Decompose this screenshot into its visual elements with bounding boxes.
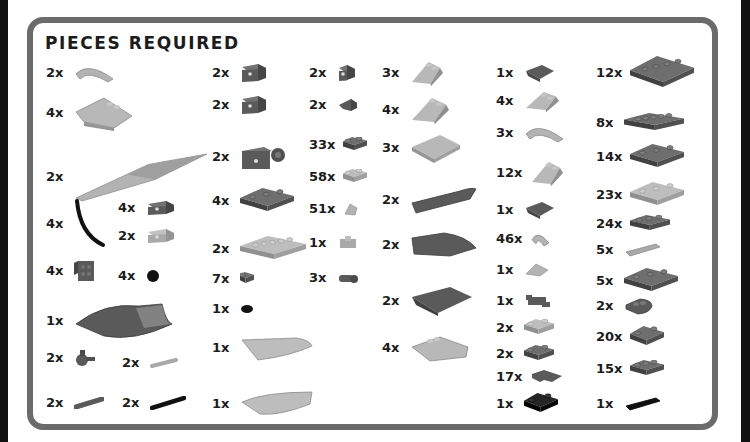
piece-quantity: 2x — [118, 228, 135, 243]
brick-with-wheel-holder-icon — [240, 143, 286, 171]
piece-quantity: 3x — [382, 140, 399, 155]
piece-quantity: 1x — [46, 313, 63, 328]
plate-rounded-pin-icon — [337, 271, 359, 285]
piece-quantity: 5x — [596, 242, 613, 257]
technic-pin-axle-icon — [74, 397, 104, 409]
piece-quantity: 33x — [309, 137, 335, 152]
slope-inverted-1x2-icon — [337, 97, 359, 113]
piece-quantity: 1x — [212, 301, 229, 316]
piece-quantity: 1x — [212, 340, 229, 355]
round-plate-1x1-icon — [240, 304, 254, 314]
technic-brick-1x2-hole-icon — [240, 62, 268, 84]
page-title: PIECES REQUIRED — [45, 33, 240, 53]
round-tile-1x1-icon — [146, 269, 160, 283]
piece-quantity: 1x — [212, 396, 229, 411]
piece-quantity: 2x — [309, 97, 326, 112]
piece-quantity: 24x — [596, 216, 622, 231]
plate-rounded-2x2-icon — [624, 296, 654, 316]
technic-pin-connector-icon — [74, 349, 96, 367]
plate-2x4-icon — [240, 188, 296, 214]
piece-quantity: 14x — [596, 149, 622, 164]
plate-1x2-bar-icon — [524, 345, 556, 363]
piece-quantity: 15x — [596, 361, 622, 376]
curved-slope-1x4-icon — [74, 63, 116, 83]
wedge-slope-2x2-split-icon — [524, 90, 560, 112]
piece-quantity: 2x — [212, 149, 229, 164]
piece-quantity: 1x — [496, 396, 513, 411]
piece-quantity: 2x — [212, 97, 229, 112]
flexible-tube-curved-icon — [74, 199, 106, 249]
piece-quantity: 2x — [596, 298, 613, 313]
piece-quantity: 58x — [309, 169, 335, 184]
tile-1x3-icon — [624, 397, 662, 411]
slope-2x2-icon — [530, 160, 564, 186]
plate-2x3-icon — [624, 268, 680, 294]
piece-quantity: 2x — [212, 65, 229, 80]
wedge-slope-4x4-icon — [74, 94, 136, 132]
piece-quantity: 4x — [212, 193, 229, 208]
bar-1x3-icon — [150, 358, 178, 368]
piece-quantity: 1x — [496, 293, 513, 308]
piece-quantity: 12x — [596, 65, 622, 80]
piece-quantity: 3x — [309, 270, 326, 285]
bracket-1x2-inverted-icon — [146, 199, 176, 217]
piece-quantity: 4x — [118, 200, 135, 215]
piece-quantity: 5x — [596, 273, 613, 288]
piece-quantity: 1x — [496, 202, 513, 217]
piece-quantity: 12x — [496, 165, 522, 180]
bracket-1x2-icon — [146, 227, 176, 245]
slope-2x2-45-icon — [410, 60, 444, 86]
plate-1x6-icon — [624, 113, 686, 133]
piece-quantity: 1x — [309, 235, 326, 250]
piece-quantity: 2x — [46, 169, 63, 184]
wedge-slope-2x3-icon — [410, 96, 450, 124]
plate-2x2-icon — [630, 326, 666, 348]
wedge-wing-12-icon — [74, 152, 209, 202]
curved-wedge-light-mirror-icon — [240, 390, 314, 418]
plate-1x1-icon — [240, 272, 256, 286]
slope-inverted-double-icon — [410, 285, 474, 317]
slope-1x2-cheese-icon — [524, 262, 550, 278]
curved-wedge-light-icon — [240, 334, 314, 362]
slope-inverted-2x2-icon — [524, 63, 556, 83]
piece-quantity: 2x — [496, 320, 513, 335]
plate-2x2-icon — [524, 393, 560, 415]
piece-quantity: 8x — [596, 115, 613, 130]
plate-clip-horizontal-icon — [524, 293, 552, 309]
curved-slope-1x2-icon — [530, 231, 552, 247]
piece-quantity: 1x — [496, 262, 513, 277]
piece-quantity: 4x — [46, 263, 63, 278]
curved-wedge-2x4-icon — [410, 230, 478, 260]
piece-quantity: 20x — [596, 329, 622, 344]
plate-1x2-icon — [343, 169, 369, 185]
piece-quantity: 2x — [212, 241, 229, 256]
plate-1x2-icon — [343, 137, 369, 153]
piece-quantity: 17x — [496, 369, 522, 384]
piece-quantity: 2x — [382, 192, 399, 207]
technic-axle-long-icon — [150, 396, 186, 410]
plate-2x3-icon — [630, 182, 686, 208]
piece-quantity: 23x — [596, 187, 622, 202]
piece-quantity: 2x — [46, 395, 63, 410]
curved-slope-2x6-icon — [410, 185, 478, 215]
piece-quantity: 4x — [382, 102, 399, 117]
plate-corner-2x2-icon — [530, 368, 564, 386]
plate-1x3-icon — [630, 360, 666, 378]
plate-2x4-icon — [630, 144, 686, 170]
piece-quantity: 2x — [382, 237, 399, 252]
piece-quantity: 51x — [309, 201, 335, 216]
plate-modified-clips-icon — [337, 235, 359, 251]
piece-quantity: 2x — [46, 65, 63, 80]
left-edge-border — [0, 0, 8, 442]
piece-quantity: 2x — [122, 355, 139, 370]
piece-quantity: 4x — [382, 340, 399, 355]
piece-quantity: 4x — [496, 93, 513, 108]
piece-quantity: 2x — [122, 395, 139, 410]
tile-1x4-icon — [624, 243, 662, 257]
piece-quantity: 4x — [46, 105, 63, 120]
piece-quantity: 2x — [496, 346, 513, 361]
plate-4x4-icon — [630, 56, 696, 90]
wedge-plate-curved-large-icon — [74, 302, 174, 340]
wedge-slope-3x4-studs-icon — [410, 333, 472, 363]
slope-1x1-icon — [343, 202, 359, 216]
